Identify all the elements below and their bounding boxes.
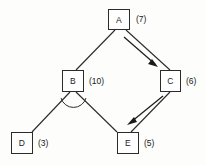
- node-c-label: C: [167, 76, 173, 86]
- angle-arc-b: [61, 98, 86, 107]
- edge-c-e: [131, 92, 170, 132]
- node-d: D: [11, 132, 33, 154]
- node-b: B: [62, 70, 84, 92]
- node-a-label: A: [116, 15, 122, 25]
- edge-b-e: [76, 92, 117, 132]
- node-d-label: D: [19, 138, 25, 148]
- graph-diagram: A (7) B (10) C (6) D (3) E (5): [0, 0, 206, 165]
- node-c: C: [160, 70, 181, 92]
- node-b-weight: (10): [89, 76, 104, 86]
- node-a-weight: (7): [136, 14, 146, 24]
- node-b-label: B: [70, 76, 76, 86]
- arrow-c-to-e: [127, 96, 163, 125]
- edge-a-b: [76, 30, 115, 70]
- node-a: A: [108, 9, 130, 30]
- node-d-weight: (3): [38, 138, 48, 148]
- node-c-weight: (6): [186, 76, 196, 86]
- node-e: E: [117, 132, 139, 154]
- arrow-a-to-c: [124, 37, 158, 67]
- node-e-label: E: [125, 138, 131, 148]
- node-e-weight: (5): [144, 138, 154, 148]
- edge-b-d: [32, 92, 70, 132]
